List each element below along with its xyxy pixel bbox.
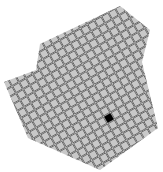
tile	[154, 39, 163, 49]
tile	[51, 5, 61, 15]
tile	[0, 148, 5, 158]
tile	[132, 162, 142, 172]
tile	[13, 18, 23, 28]
tile	[18, 0, 28, 6]
tile	[0, 138, 8, 148]
tile	[159, 128, 163, 138]
tile	[17, 154, 27, 164]
tile	[48, 16, 58, 26]
tile	[30, 17, 40, 27]
tile	[156, 74, 163, 84]
tile	[125, 166, 135, 172]
tile	[161, 164, 163, 172]
tile	[52, 23, 62, 33]
tile	[87, 3, 97, 13]
tile	[39, 160, 49, 170]
tile	[80, 7, 90, 17]
tile	[50, 163, 60, 172]
tile	[79, 165, 89, 172]
tile-layer	[0, 0, 163, 172]
tile	[46, 156, 56, 166]
tile	[34, 24, 44, 34]
tile	[3, 98, 13, 108]
tile	[25, 168, 35, 172]
tile	[9, 11, 19, 21]
tile	[146, 154, 156, 164]
tile	[0, 95, 2, 105]
tile	[152, 132, 162, 142]
tile	[139, 158, 149, 168]
tile	[162, 117, 163, 127]
tile	[5, 5, 15, 15]
tile	[14, 165, 24, 172]
tile	[27, 28, 37, 38]
tile	[57, 159, 67, 169]
tile	[160, 146, 163, 156]
tile	[68, 162, 78, 172]
tile	[0, 131, 4, 141]
tile	[7, 40, 17, 50]
tile	[15, 7, 25, 17]
tile	[0, 91, 8, 101]
tile	[65, 0, 75, 7]
tile	[153, 150, 163, 160]
tile	[157, 92, 163, 102]
tile	[148, 60, 158, 70]
tile	[45, 27, 55, 37]
tile	[35, 153, 45, 163]
tile	[150, 161, 160, 171]
tile	[156, 139, 163, 149]
tile	[33, 6, 43, 16]
tile	[0, 9, 7, 19]
tile	[147, 0, 157, 5]
tile	[158, 0, 163, 8]
tile	[36, 0, 46, 5]
tile	[0, 37, 5, 47]
tile	[18, 43, 28, 53]
tile	[0, 84, 4, 94]
tile	[19, 61, 29, 71]
tile	[20, 143, 30, 153]
tile	[47, 0, 57, 8]
tile	[130, 0, 140, 7]
tile	[0, 2, 3, 12]
tile	[0, 66, 3, 76]
tile	[29, 0, 39, 9]
tile	[162, 6, 163, 16]
tile	[154, 168, 163, 172]
tile	[0, 26, 8, 36]
tile	[15, 54, 25, 64]
tile	[76, 0, 86, 10]
tile	[11, 47, 21, 57]
tile	[160, 35, 163, 45]
tile	[114, 163, 124, 172]
tile	[22, 50, 32, 60]
tile	[0, 155, 9, 165]
tile	[108, 0, 118, 1]
tile	[12, 130, 22, 140]
tile	[151, 3, 161, 13]
tile	[6, 22, 16, 32]
tile	[7, 0, 17, 3]
tile	[32, 164, 42, 172]
tile	[128, 155, 138, 165]
tile	[24, 150, 34, 160]
tile	[161, 99, 163, 109]
tile	[23, 21, 33, 31]
tile	[158, 110, 163, 120]
tile	[0, 120, 7, 130]
tile	[62, 8, 72, 18]
tile	[11, 1, 21, 11]
tile	[0, 30, 1, 40]
tile	[54, 170, 64, 172]
tile	[0, 102, 6, 112]
tile	[42, 149, 52, 159]
tile	[121, 159, 131, 169]
tile	[13, 147, 23, 157]
tile	[157, 157, 163, 167]
tile	[119, 0, 129, 4]
tile	[144, 7, 154, 17]
tile	[159, 17, 163, 27]
tile	[36, 171, 46, 172]
tile	[8, 123, 18, 133]
